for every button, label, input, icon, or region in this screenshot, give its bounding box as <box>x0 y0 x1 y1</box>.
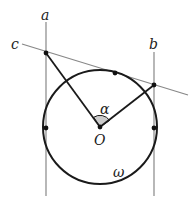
point-tangent-b <box>152 126 157 131</box>
label-O: O <box>94 132 106 148</box>
segment-OA <box>46 53 100 127</box>
point-O <box>98 125 103 130</box>
label-omega: ω <box>113 164 125 180</box>
label-alpha: α <box>100 101 110 117</box>
geometry-diagram: a b c α O ω <box>0 0 196 205</box>
label-c: c <box>11 36 19 52</box>
point-A <box>44 51 49 56</box>
point-tangent-a <box>44 126 49 131</box>
label-a: a <box>41 7 49 23</box>
label-b: b <box>149 36 158 52</box>
point-tangent-c <box>113 71 118 76</box>
point-B <box>152 83 157 88</box>
